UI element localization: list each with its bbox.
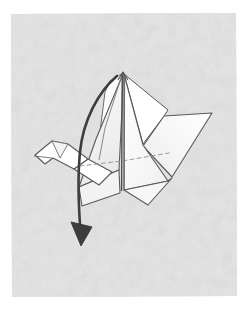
- origami-crane-diagram: [0, 0, 250, 314]
- diagram-stage: [0, 0, 250, 314]
